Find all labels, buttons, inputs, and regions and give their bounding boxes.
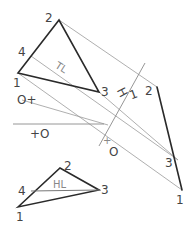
label-fold-o: O: [109, 145, 118, 159]
projection-line-2: [59, 20, 157, 87]
label-top-1: 1: [13, 76, 21, 90]
label-aux-1: 1: [176, 193, 184, 207]
label-front-1: 1: [16, 210, 24, 224]
label-front-4: 4: [18, 184, 26, 198]
label-marker-bottom: +O: [30, 127, 50, 141]
diagram-canvas: 2 4 1 3 TL O+ +O H 1 + O 2 3 1 2 4 3 1 H…: [0, 0, 194, 233]
label-marker-top: O+: [17, 93, 37, 107]
label-top-4: 4: [18, 45, 26, 59]
label-front-2: 2: [64, 159, 72, 173]
label-aux-3: 3: [165, 156, 173, 170]
label-top-2: 2: [45, 11, 53, 25]
label-horizontal-line: HL: [53, 179, 67, 190]
label-top-3: 3: [101, 85, 109, 99]
label-fold-1: 1: [127, 87, 139, 103]
projection-lines: [18, 20, 182, 190]
label-aux-2: 2: [145, 84, 153, 98]
hl-line: [31, 190, 99, 191]
label-front-3: 3: [101, 183, 109, 197]
fold-line-h1: [99, 63, 145, 146]
